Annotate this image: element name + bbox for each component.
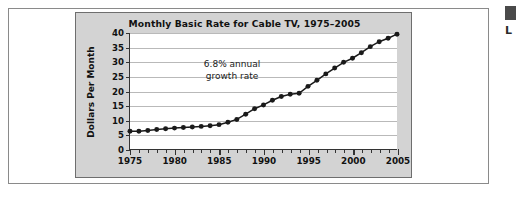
y-tick-label: 0: [118, 145, 124, 155]
data-point-marker: [217, 122, 222, 127]
figure-panel: Monthly Basic Rate for Cable TV, 1975–20…: [75, 12, 412, 178]
data-point-marker: [208, 123, 213, 128]
x-tick-minor: [210, 149, 211, 153]
x-tick-major: [353, 149, 354, 155]
data-point-marker: [359, 50, 364, 55]
data-point-marker: [154, 127, 159, 132]
edge-color-swatch: [505, 6, 516, 20]
x-tick-label: 2000: [341, 156, 365, 166]
x-tick-minor: [139, 149, 140, 153]
x-tick-major: [175, 149, 176, 155]
x-tick-minor: [148, 149, 149, 153]
x-tick-minor: [318, 149, 319, 153]
y-tick-label: 25: [112, 72, 124, 82]
data-series-line: [130, 33, 397, 149]
y-tick-label: 35: [112, 43, 124, 53]
edge-letter-glyph: L: [505, 25, 512, 36]
x-tick-label: 1995: [296, 156, 320, 166]
y-tick-label: 20: [112, 87, 124, 97]
data-point-marker: [350, 56, 355, 61]
x-tick-minor: [362, 149, 363, 153]
data-point-marker: [145, 128, 150, 133]
y-tick-label: 30: [112, 57, 124, 67]
x-tick-minor: [201, 149, 202, 153]
data-point-marker: [377, 39, 382, 44]
data-point-marker: [279, 94, 284, 99]
data-point-marker: [181, 125, 186, 130]
x-tick-minor: [166, 149, 167, 153]
y-tick-label: 40: [112, 28, 124, 38]
x-tick-minor: [335, 149, 336, 153]
data-point-marker: [234, 117, 239, 122]
data-point-marker: [323, 71, 328, 76]
data-point-marker: [128, 129, 133, 134]
page-root: Monthly Basic Rate for Cable TV, 1975–20…: [0, 0, 522, 200]
chart-title: Monthly Basic Rate for Cable TV, 1975–20…: [76, 18, 413, 29]
y-tick-label: 5: [118, 130, 124, 140]
data-point-marker: [261, 102, 266, 107]
x-tick-major: [398, 149, 399, 155]
data-point-marker: [306, 84, 311, 89]
y-tick-label: 10: [112, 116, 124, 126]
plot-area: 0510152025303540 19751980198519901995200…: [129, 33, 397, 150]
x-tick-minor: [371, 149, 372, 153]
data-point-marker: [386, 36, 391, 41]
x-tick-major: [264, 149, 265, 155]
data-point-marker: [314, 78, 319, 83]
x-tick-label: 1980: [162, 156, 186, 166]
x-tick-minor: [193, 149, 194, 153]
data-point-marker: [332, 66, 337, 71]
x-tick-minor: [389, 149, 390, 153]
x-tick-minor: [228, 149, 229, 153]
x-tick-minor: [300, 149, 301, 153]
data-point-marker: [199, 124, 204, 129]
data-point-marker: [172, 126, 177, 131]
x-tick-label: 1975: [118, 156, 142, 166]
x-tick-label: 1985: [207, 156, 231, 166]
data-point-marker: [252, 106, 257, 111]
x-tick-minor: [157, 149, 158, 153]
x-tick-minor: [380, 149, 381, 153]
x-tick-major: [219, 149, 220, 155]
data-point-marker: [243, 112, 248, 117]
x-tick-minor: [184, 149, 185, 153]
x-tick-minor: [246, 149, 247, 153]
x-tick-minor: [273, 149, 274, 153]
data-point-marker: [270, 98, 275, 103]
data-point-marker: [341, 60, 346, 65]
data-point-marker: [163, 126, 168, 131]
data-point-marker: [136, 129, 141, 134]
series-path: [130, 34, 397, 131]
x-tick-minor: [291, 149, 292, 153]
x-tick-label: 1990: [252, 156, 276, 166]
data-point-marker: [225, 120, 230, 125]
y-tick-label: 15: [112, 101, 124, 111]
data-point-marker: [395, 32, 400, 37]
x-tick-minor: [327, 149, 328, 153]
x-tick-minor: [255, 149, 256, 153]
x-tick-minor: [344, 149, 345, 153]
data-point-marker: [288, 92, 293, 97]
x-tick-minor: [282, 149, 283, 153]
data-point-marker: [297, 91, 302, 96]
x-tick-major: [309, 149, 310, 155]
y-axis-title: Dollars Per Month: [84, 33, 98, 150]
x-tick-major: [130, 149, 131, 155]
data-point-marker: [368, 44, 373, 49]
x-tick-label: 2005: [386, 156, 410, 166]
y-axis-title-label: Dollars Per Month: [86, 46, 96, 137]
data-point-marker: [190, 124, 195, 129]
x-tick-minor: [237, 149, 238, 153]
